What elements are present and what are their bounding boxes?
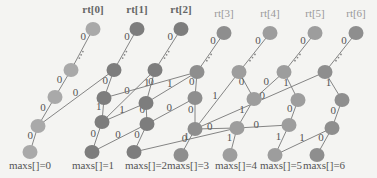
ellipsis-dot [254,54,256,56]
node-r5 [308,26,323,40]
root-label-5: rt[5] [305,7,325,19]
maxs-label-0: maxs[]=0 [9,159,52,171]
node-b5 [291,93,306,107]
root-label-3: rt[3] [214,7,234,19]
maxs-label-5: maxs[]=5 [260,159,303,171]
node-b4 [247,92,262,106]
node-r2 [174,22,189,36]
ellipsis-dot [122,57,124,59]
edge-label: 0 [115,128,121,140]
ellipsis-dot [80,54,82,56]
maxs-label-2: maxs[]=2 [125,159,167,171]
edge-label: 0 [166,101,172,113]
edge-label: 0 [300,34,306,46]
ellipsis-dot [164,57,166,59]
node-r4 [263,26,278,40]
root-label-4: rt[4] [260,7,280,19]
node-r1 [130,22,145,36]
node-b0 [48,90,63,104]
root-label-1: rt[1] [126,3,147,15]
edge-label: 0 [264,75,270,87]
node-c1 [95,115,110,129]
node-a4 [232,65,247,79]
edge-label: 0 [124,84,130,96]
ellipsis-dot [340,54,342,56]
maxs-label-6: maxs[]=6 [303,159,346,171]
ellipsis-dot [249,60,251,62]
ellipsis-dot [299,54,301,56]
maxs-label-4: maxs[]=4 [215,159,258,171]
ellipsis-dot [206,60,208,62]
tree-diagram: 0000000000011000101100101001000000001101… [0,0,377,178]
edge-label: 0 [331,104,337,116]
edge-c4-c5 [237,125,289,128]
edge-label: 1 [119,103,125,115]
node-c2 [140,117,155,131]
node-a6 [318,65,333,79]
root-label-0: rt[0] [82,3,103,15]
node-r0 [86,22,101,36]
edge-label: 0 [57,73,63,85]
node-a2 [148,63,163,77]
edge-label: 1 [299,131,305,143]
node-c3 [188,122,203,136]
edge-label: 0 [103,74,109,86]
ellipsis-dot [78,57,80,59]
node-a1 [107,63,122,77]
maxs-label-3: maxs[]=3 [167,159,210,171]
ellipsis-dot [210,54,212,56]
root-label-2: rt[2] [170,3,191,15]
node-r6 [349,26,364,40]
node-b2 [139,96,154,110]
maxs-label-1: maxs[]=1 [72,159,114,171]
edge-label: 0 [207,120,213,132]
node-b1 [97,91,112,105]
node-c6 [325,121,340,135]
node-r3 [217,26,232,40]
node-c0 [31,119,46,133]
edge-label: 1 [276,130,282,142]
ellipsis-dot [168,51,170,53]
ellipsis-dot [124,54,126,56]
node-a5 [277,65,292,79]
edge-label: 0 [81,30,87,42]
ellipsis-dot [294,60,296,62]
node-a0 [64,63,79,77]
edge-label: 0 [341,34,347,46]
edge-label: 0 [253,118,259,130]
edge-label: 1 [239,103,245,115]
edge-label: 0 [124,30,130,42]
ellipsis-dot [338,57,340,59]
ellipsis-dot [166,54,168,56]
node-c5 [282,118,297,132]
ellipsis-dot [208,57,210,59]
ellipsis-dot [335,60,337,62]
node-b3 [188,91,203,105]
ellipsis-dot [82,51,84,53]
node-d1 [85,145,100,159]
edge-label: 1 [227,131,233,143]
root-label-6: rt[6] [346,7,366,19]
ellipsis-dot [297,57,299,59]
ellipsis-dot [125,51,127,53]
edge-label: 0 [168,30,174,42]
node-d2 [127,145,142,159]
node-b6 [335,93,350,107]
edge-label: 0 [40,101,46,113]
node-a3 [190,65,205,79]
node-d0 [23,145,38,159]
edge-label: 0 [318,131,324,143]
edge-label: 0 [73,86,79,98]
edge-label: 0 [255,34,261,46]
edge-label: 0 [91,127,97,139]
edge-label: 1 [212,89,218,101]
edge-label: 0 [210,34,216,46]
node-c4 [230,121,245,135]
ellipsis-dot [252,57,254,59]
